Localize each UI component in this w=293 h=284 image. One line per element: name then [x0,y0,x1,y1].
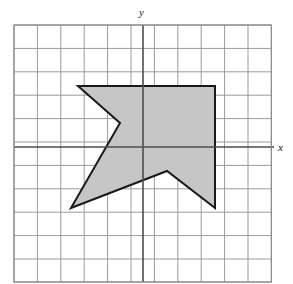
x-axis-label: x [278,142,283,153]
grid-and-polygon-canvas [0,0,293,284]
coordinate-grid-figure: y x [0,0,293,284]
y-axis-label: y [139,7,144,18]
